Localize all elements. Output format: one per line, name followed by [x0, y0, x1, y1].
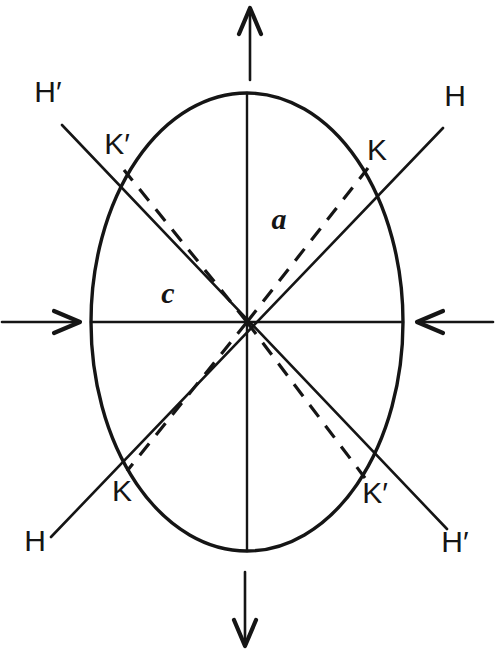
label-k-prime-bottom-right: K′ [362, 476, 388, 509]
label-k-prime-top-left: K′ [104, 127, 130, 160]
compression-arrow-right [2, 311, 80, 333]
label-k-top-right: K [367, 133, 387, 166]
tension-arrow-down [234, 572, 256, 646]
ellipse-slip-plane-diagram: a c H′K′HKKHK′H′ [0, 0, 495, 653]
label-h-top-right: H [444, 79, 466, 112]
label-h-bottom-left: H [24, 524, 46, 557]
dashed-slip-upper-right [247, 168, 368, 322]
label-h-prime-bottom-right: H′ [441, 525, 469, 558]
label-h-prime-top-left: H′ [34, 75, 62, 108]
label-k-bottom-left: K [112, 474, 132, 507]
figure-container: a c H′K′HKKHK′H′ [0, 0, 495, 653]
tension-arrow-up [239, 8, 261, 80]
axis-label-a: a [272, 202, 287, 235]
compression-arrow-left [417, 311, 493, 333]
dashed-slip-lower-right [247, 322, 365, 478]
axis-label-c: c [161, 276, 174, 309]
dashed-slip-upper-left [124, 170, 247, 322]
